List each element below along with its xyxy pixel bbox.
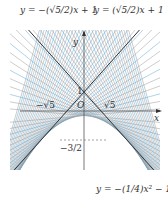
neg-sqrt5-label: −√5 (36, 101, 55, 110)
left-line-label: y = −(√5/2)x + 1 (20, 6, 97, 15)
x-axis-label: x (154, 114, 159, 123)
right-line-label: y = (√5/2)x + 1 (94, 6, 164, 15)
y-intercept-label: 1 (77, 87, 83, 96)
neg-three-halves-label: −3/2 (60, 144, 82, 153)
origin-label: O (77, 101, 84, 110)
pos-sqrt5-label: √5 (104, 101, 115, 110)
y-axis-label: y (73, 38, 78, 47)
parabola-label: y = −(1/4)x² − 1/4 (96, 185, 168, 194)
